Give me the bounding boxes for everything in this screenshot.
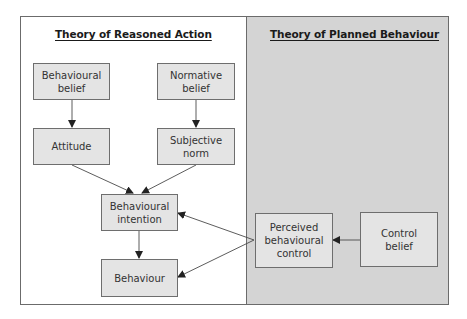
node-perceived-behavioural-control: Perceived behavioural control (255, 213, 333, 268)
node-label: Behavioural belief (42, 69, 102, 95)
node-normative-belief: Normative belief (157, 63, 235, 100)
node-label: Behaviour (114, 272, 165, 285)
node-label: Control belief (376, 227, 422, 253)
node-label: Attitude (51, 140, 91, 153)
node-label: Subjective norm (168, 134, 224, 160)
edge-control-to-behaviour (178, 240, 254, 277)
edge-attitude-to-intention (72, 165, 133, 193)
node-behaviour: Behaviour (101, 259, 178, 297)
node-behavioural-intention: Behavioural intention (101, 194, 178, 231)
node-label: Perceived behavioural control (262, 221, 326, 260)
edge-control-to-intention (178, 213, 254, 240)
node-attitude: Attitude (33, 128, 110, 165)
node-behavioural-belief: Behavioural belief (33, 63, 110, 100)
node-subjective-norm: Subjective norm (157, 128, 235, 165)
edge-norm-to-intention (142, 165, 196, 193)
node-label: Behavioural intention (110, 200, 170, 226)
node-control-belief: Control belief (360, 212, 438, 267)
node-label: Normative belief (168, 69, 224, 95)
